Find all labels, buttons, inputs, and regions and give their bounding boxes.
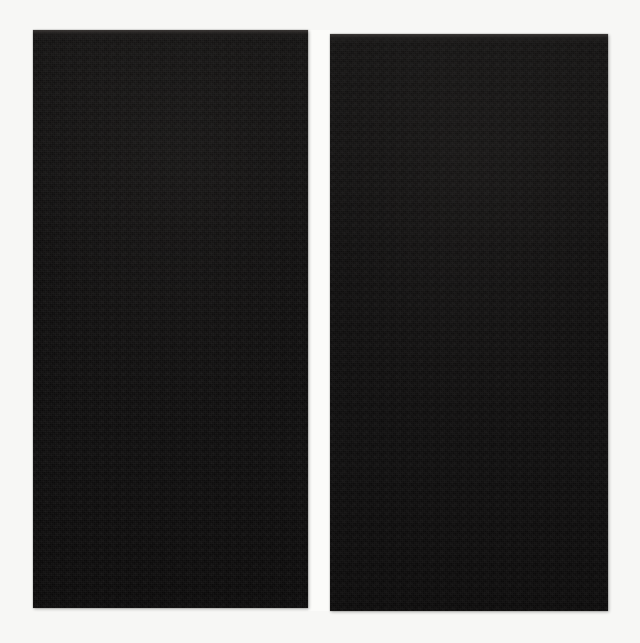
panel-shading-right — [330, 34, 608, 611]
panel-grain-texture-right — [330, 34, 608, 611]
panel-block-noise-left — [33, 30, 308, 608]
panel-gutter — [308, 30, 330, 611]
page-root — [0, 0, 640, 643]
dark-panel-left[interactable] — [33, 30, 308, 608]
dark-panel-right[interactable] — [330, 34, 608, 611]
panel-top-edge-highlight-left — [33, 30, 308, 39]
panel-shading-left — [33, 30, 308, 608]
panel-block-noise-right — [330, 34, 608, 611]
panel-top-edge-highlight-right — [330, 34, 608, 43]
panel-grain-texture-left — [33, 30, 308, 608]
